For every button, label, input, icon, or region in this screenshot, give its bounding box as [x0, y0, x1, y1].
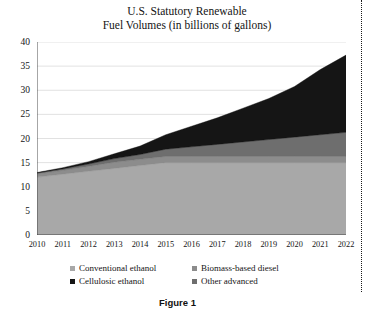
legend-swatch-icon [70, 279, 75, 284]
chart-title-line-2: Fuel Volumes (in billions of gallons) [28, 18, 346, 32]
legend-label: Cellulosic ethanol [79, 276, 144, 287]
y-axis-tick-label: 40 [0, 37, 30, 47]
y-axis-tick-label: 0 [0, 230, 30, 240]
legend-label: Conventional ethanol [79, 263, 156, 274]
area-series-conventional-ethanol [37, 163, 346, 235]
page-divider-dotted-rule [361, 0, 362, 292]
legend-swatch-icon [70, 266, 75, 271]
y-axis-tick-label: 30 [0, 85, 30, 95]
legend-item[interactable]: Other advanced [192, 276, 258, 287]
figure-caption: Figure 1 [0, 297, 355, 308]
y-axis-tick-label: 10 [0, 182, 30, 192]
stacked-area-chart [37, 42, 346, 235]
legend-item[interactable]: Conventional ethanol [70, 263, 156, 274]
y-axis-tick-label: 5 [0, 206, 30, 216]
plot-area [37, 42, 346, 235]
legend-label: Biomass-based diesel [201, 263, 279, 274]
legend-swatch-icon [192, 279, 197, 284]
chart-legend: Conventional ethanolCellulosic ethanolBi… [70, 263, 320, 289]
y-axis-tick-label: 15 [0, 158, 30, 168]
legend-label: Other advanced [201, 276, 258, 287]
x-axis-tick-label: 2022 [331, 240, 361, 250]
legend-swatch-icon [192, 266, 197, 271]
y-axis-tick-label: 35 [0, 61, 30, 71]
legend-item[interactable]: Cellulosic ethanol [70, 276, 144, 287]
legend-item[interactable]: Biomass-based diesel [192, 263, 279, 274]
y-axis-tick-label: 25 [0, 109, 30, 119]
chart-title-line-1: U.S. Statutory Renewable [28, 4, 346, 18]
chart-title: U.S. Statutory Renewable Fuel Volumes (i… [28, 4, 346, 32]
y-axis-tick-label: 20 [0, 134, 30, 144]
figure-container: U.S. Statutory Renewable Fuel Volumes (i… [0, 0, 371, 315]
